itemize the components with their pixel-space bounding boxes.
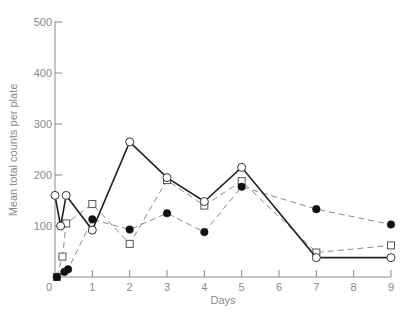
open-circle-marker <box>387 254 395 262</box>
open-circle-marker <box>62 191 70 199</box>
open-square-marker <box>89 201 96 208</box>
open-circle-marker <box>88 226 96 234</box>
series-layer <box>51 138 395 281</box>
open-square-marker <box>388 242 395 249</box>
series-line <box>57 187 391 277</box>
line-chart: 1002003004005000123456789 Days Mean tota… <box>0 0 411 319</box>
open-square-marker <box>59 253 66 260</box>
series-line <box>55 142 391 258</box>
x-tick-label: 5 <box>239 281 245 293</box>
x-tick-label: 9 <box>388 281 394 293</box>
filled-circle-marker <box>126 226 134 234</box>
x-tick-label: 6 <box>276 281 282 293</box>
open-circle-marker <box>200 198 208 206</box>
y-axis-title: Mean total counts per plate <box>7 84 19 217</box>
y-tick-label: 100 <box>34 220 52 232</box>
axes: 1002003004005000123456789 <box>34 16 394 293</box>
series-open-squares <box>53 177 394 281</box>
x-tick-label: 4 <box>201 281 207 293</box>
x-tick-label: 2 <box>127 281 133 293</box>
filled-circle-marker <box>313 205 321 213</box>
open-circle-marker <box>238 163 246 171</box>
open-circle-marker <box>163 174 171 182</box>
filled-circle-marker <box>201 228 209 236</box>
series-open-circles <box>51 138 395 262</box>
open-circle-marker <box>57 222 65 230</box>
filled-circle-marker <box>64 266 72 274</box>
y-tick-label: 200 <box>34 169 52 181</box>
open-circle-marker <box>51 191 59 199</box>
x-tick-label: 8 <box>351 281 357 293</box>
x-tick-label: 7 <box>313 281 319 293</box>
x-tick-label: 0 <box>46 281 52 293</box>
filled-circle-marker <box>53 273 61 281</box>
open-circle-marker <box>126 138 134 146</box>
y-tick-label: 400 <box>34 67 52 79</box>
open-square-marker <box>126 240 133 247</box>
x-axis-title: Days <box>210 294 236 306</box>
filled-circle-marker <box>163 209 171 217</box>
x-tick-label: 3 <box>164 281 170 293</box>
open-circle-marker <box>312 254 320 262</box>
filled-circle-marker <box>238 183 246 191</box>
y-tick-label: 500 <box>34 16 52 28</box>
filled-circle-marker <box>387 221 395 229</box>
y-tick-label: 300 <box>34 118 52 130</box>
series-filled-circles <box>53 183 395 281</box>
x-tick-label: 1 <box>89 281 95 293</box>
